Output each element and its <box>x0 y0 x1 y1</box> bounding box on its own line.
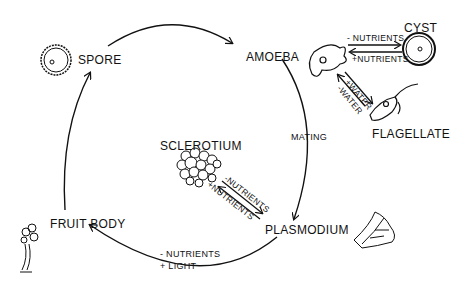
label-flagellate: FLAGELLATE <box>372 128 450 140</box>
label-mating: MATING <box>291 133 327 142</box>
label-sclerotium: SCLEROTIUM <box>160 140 242 152</box>
arrow-spore-to-amoeba <box>108 25 232 46</box>
spore-icon <box>41 45 71 75</box>
arrow-fruit-body-to-spore <box>64 73 90 210</box>
fruit-body-icon <box>20 224 38 272</box>
label-plus-light: + LIGHT <box>160 262 196 271</box>
label-fruit-body: FRUIT BODY <box>50 218 125 230</box>
label-plasmodium: PLASMODIUM <box>265 224 349 236</box>
label-plus-nutrients-cyst: +NUTRIENTS <box>352 55 409 64</box>
label-amoeba: AMOEBA <box>246 51 299 63</box>
arrow-plasmodium-to-fruit-body <box>90 225 277 266</box>
label-spore: SPORE <box>78 54 122 66</box>
label-minus-nutrients-fruiting: - NUTRIENTS <box>160 250 220 259</box>
plasmodium-icon <box>354 212 395 248</box>
amoeba-cyst-arrows <box>348 45 402 52</box>
flagellate-icon <box>370 84 418 120</box>
label-cyst: CYST <box>404 22 437 34</box>
amoeba-icon <box>309 45 346 76</box>
life-cycle-diagram: SPORE AMOEBA CYST FLAGELLATE SCLEROTIUM … <box>0 0 465 293</box>
label-minus-nutrients-cyst: - NUTRIENTS <box>347 34 404 43</box>
